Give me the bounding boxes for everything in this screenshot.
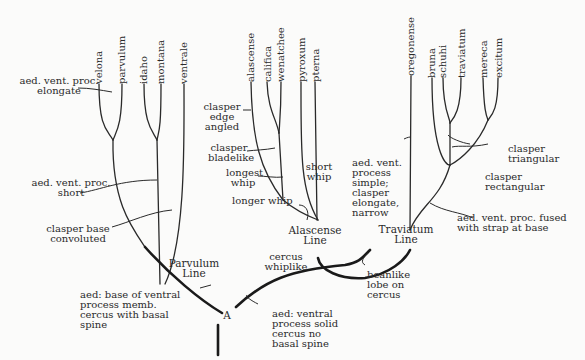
annotation-aed-vent-simple: aed. vent. process simple; clasper elong… — [352, 158, 402, 218]
annotation-aed-base-memb: aed: base of ventral process memb. cercu… — [80, 290, 180, 330]
annotation-short-whip: short whip — [302, 162, 336, 182]
annotation-aed-vent-short: aed. vent. proc. short — [26, 178, 116, 198]
taxon-oregonense: oregonense — [405, 17, 416, 76]
taxon-schuhi: schuhi — [437, 45, 448, 78]
root-node-label: A — [220, 310, 234, 320]
annotation-clasper-bladelike: clasper bladelike — [208, 143, 250, 163]
taxon-idaho: idaho — [138, 56, 149, 84]
taxon-pyroxum: pyroxum — [296, 38, 307, 82]
taxon-montana: montana — [155, 40, 166, 84]
taxon-parvulum: parvulum — [116, 36, 127, 84]
taxon-bruna: bruna — [426, 48, 437, 78]
traviatum-line-label: Traviatum Line — [375, 224, 437, 244]
alascense-line-label: Alascense Line — [285, 225, 345, 245]
parvulum-line-label: Parvulum Line — [164, 258, 224, 278]
annotation-clasper-base: clasper base convoluted — [42, 224, 114, 244]
annotation-aed-ventral-solid: aed: ventral process solid cercus no bas… — [272, 309, 338, 349]
annotation-cercus-whiplike: cercus whiplike — [260, 252, 312, 272]
annotation-longer-whip: longer whip — [232, 196, 293, 206]
annotation-clasper-triangular: clasper triangular — [508, 144, 559, 164]
annotation-aed-vent-fused: aed. vent. proc. fused with strap at bas… — [457, 213, 567, 233]
phylogeny-diagram: velona parvulum idaho montana ventrale a… — [0, 0, 585, 360]
taxon-ventrale: ventrale — [178, 42, 189, 84]
taxon-excitum: excitum — [493, 38, 504, 78]
taxon-traviatum: traviatum — [456, 28, 467, 78]
taxon-wenatchee: wenatchee — [275, 27, 286, 82]
annotation-beanlike-lobe: beanlike lobe on cercus — [367, 270, 410, 300]
taxon-califica: califica — [262, 46, 273, 82]
taxon-mereca: mereca — [478, 40, 489, 78]
annotation-aed-vent-elongate: aed. vent. proc. elongate — [14, 76, 104, 96]
taxon-alascense: alascense — [245, 33, 256, 82]
taxon-pterna: pterna — [310, 48, 321, 82]
annotation-clasper-rectangular: clasper rectangular — [485, 172, 545, 192]
annotation-clasper-edge: clasper edge angled — [200, 102, 244, 132]
annotation-longest-whip: longest whip — [226, 168, 260, 188]
